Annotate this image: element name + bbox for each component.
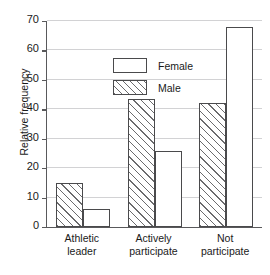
y-tick-mark [42,227,47,228]
y-tick-label: 20 [27,160,39,172]
bars-layer [47,21,262,227]
x-label-line: participate [189,245,261,258]
x-axis-labels: AthleticleaderActivelyparticipateNotpart… [46,232,261,272]
y-tick-label: 70 [27,13,39,25]
y-tick-label: 40 [27,101,39,113]
x-label-line: leader [46,245,118,258]
x-label-1: Activelyparticipate [118,232,190,257]
legend-item-male[interactable]: Male [113,79,205,96]
y-tick-label: 30 [27,131,39,143]
bar-chart: Relative frequency 010203040506070 Femal… [0,0,270,275]
x-label-line: Actively [118,232,190,245]
x-label-line: participate [118,245,190,258]
legend-label-male: Male [158,82,181,94]
legend-item-female[interactable]: Female [113,57,205,74]
y-tick-label: 60 [27,42,39,54]
bar-female-2 [226,27,253,227]
bar-female-0 [83,209,110,227]
legend-swatch-female [113,58,147,73]
bar-male-1 [128,99,155,227]
x-label-line: Athletic [46,232,118,245]
bar-female-1 [155,151,182,228]
x-label-0: Athleticleader [46,232,118,257]
chart-legend: FemaleMale [113,57,205,101]
y-tick-label: 10 [27,190,39,202]
x-label-2: Notparticipate [189,232,261,257]
x-label-line: Not [189,232,261,245]
y-tick-label: 50 [27,72,39,84]
y-tick-label: 0 [33,219,39,231]
bar-male-0 [56,183,83,227]
bar-male-2 [199,103,226,227]
legend-label-female: Female [158,60,193,72]
plot-area: 010203040506070 FemaleMale [46,21,262,228]
legend-swatch-male [113,80,147,95]
